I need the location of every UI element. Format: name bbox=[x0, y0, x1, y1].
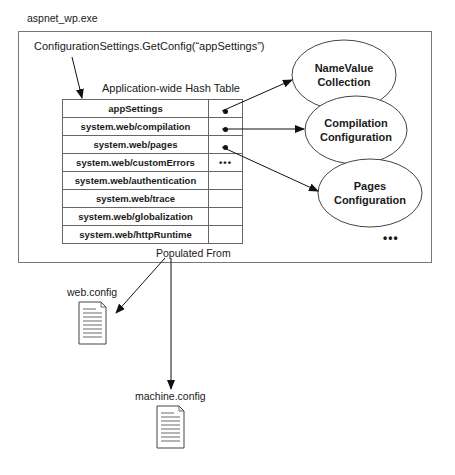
object-label-line: Collection bbox=[294, 75, 394, 89]
object-label-line: Configuration bbox=[306, 130, 406, 144]
object-label-line: Configuration bbox=[320, 193, 420, 207]
object-label-line: NameValue bbox=[294, 61, 394, 75]
web-config-label: web.config bbox=[67, 286, 117, 298]
object-label-pages: Pages Configuration bbox=[320, 179, 420, 207]
pointer-arrow-pages bbox=[222, 147, 318, 191]
more-objects-ellipsis: ••• bbox=[383, 231, 399, 245]
web-config-document-icon bbox=[79, 302, 106, 344]
object-label-compilation: Compilation Configuration bbox=[306, 116, 406, 144]
machine-config-label: machine.config bbox=[135, 390, 206, 402]
object-label-namevalue: NameValue Collection bbox=[294, 61, 394, 89]
populated-arrow-web-config bbox=[116, 258, 165, 313]
call-arrow bbox=[72, 57, 82, 98]
object-label-line: Pages bbox=[320, 179, 420, 193]
machine-config-document-icon bbox=[157, 406, 184, 448]
pointer-arrow-appsettings bbox=[222, 80, 292, 111]
populated-from-label: Populated From bbox=[156, 247, 231, 259]
object-label-line: Compilation bbox=[306, 116, 406, 130]
